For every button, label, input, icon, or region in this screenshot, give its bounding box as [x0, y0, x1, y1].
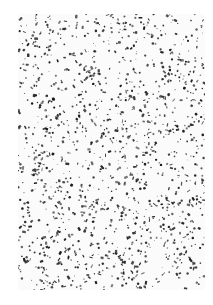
- speckle-field: [18, 14, 205, 290]
- speckle-panel: [18, 14, 205, 290]
